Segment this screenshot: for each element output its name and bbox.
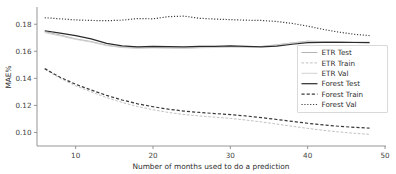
x-tick-label: 40 (303, 151, 313, 160)
legend-label-forest-test: Forest Test (322, 79, 361, 88)
y-tick-label: 0.12 (15, 101, 31, 110)
legend-label-forest-val: Forest Val (322, 100, 357, 109)
y-tick-label: 0.16 (15, 47, 31, 56)
y-axis-label: MAE% (4, 65, 13, 88)
y-tick-label: 0.14 (15, 74, 31, 83)
chart-canvas: 1020304050 0.100.120.140.160.18 Number o… (0, 0, 396, 174)
x-axis-ticks: 1020304050 (71, 146, 390, 160)
chart-legend: ETR TestETR TrainETR ValForest TestFores… (298, 46, 388, 113)
legend-label-etr-test: ETR Test (322, 48, 353, 57)
y-axis-ticks: 0.100.120.140.160.18 (15, 20, 37, 137)
x-axis-label: Number of months used to do a prediction (132, 162, 289, 171)
legend-label-etr-train: ETR Train (322, 59, 355, 68)
y-tick-label: 0.18 (15, 20, 31, 29)
x-tick-label: 20 (148, 151, 158, 160)
legend-label-etr-val: ETR Val (322, 69, 349, 78)
x-tick-label: 50 (380, 151, 390, 160)
x-tick-label: 30 (226, 151, 236, 160)
chart-figure: 1020304050 0.100.120.140.160.18 Number o… (0, 0, 396, 174)
y-tick-label: 0.10 (15, 128, 31, 137)
legend-label-forest-train: Forest Train (322, 90, 364, 99)
x-tick-label: 10 (71, 151, 81, 160)
